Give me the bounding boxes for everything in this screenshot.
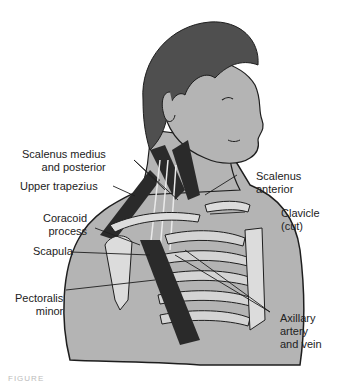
label-line: and posterior [22, 161, 106, 174]
label-scapula: Scapula [33, 245, 73, 258]
label-line: minor [15, 305, 63, 318]
label-line: Scalenus medius [22, 148, 106, 161]
label-line: Coracoid [43, 212, 87, 225]
label-upper-trapezius: Upper trapezius [20, 180, 98, 193]
label-line: Scalenus [256, 170, 301, 183]
label-coracoid-process: Coracoid process [43, 212, 87, 238]
figure-caption: FIGURE [8, 374, 44, 382]
label-line: Clavicle [281, 207, 320, 220]
label-scalenus-anterior: Scalenus anterior [256, 170, 301, 196]
label-line: (cut) [281, 220, 320, 233]
label-clavicle: Clavicle (cut) [281, 207, 320, 233]
label-pectoralis-minor: Pectoralis minor [15, 292, 63, 318]
label-line: process [43, 225, 87, 238]
label-line: and vein [280, 338, 322, 351]
label-scalenus-medius-posterior: Scalenus medius and posterior [22, 148, 106, 174]
label-line: Axillary [280, 312, 322, 325]
label-line: Pectoralis [15, 292, 63, 305]
label-line: anterior [256, 183, 301, 196]
label-axillary-artery-vein: Axillary artery and vein [280, 312, 322, 351]
label-line: artery [280, 325, 322, 338]
